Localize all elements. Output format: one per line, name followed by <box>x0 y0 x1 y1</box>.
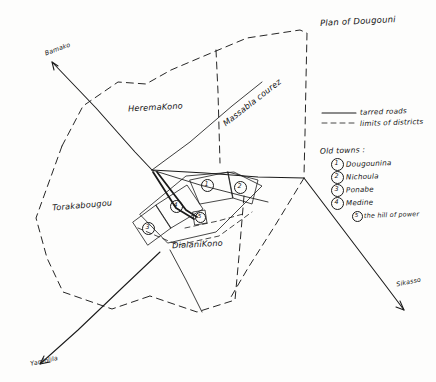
legend-number-1: 1 <box>331 158 342 169</box>
legend-label-4: Medine <box>346 198 374 208</box>
map-marker-number-1: 1 <box>201 179 212 190</box>
road-south-stub <box>170 250 202 312</box>
map-marker-number-2: 2 <box>234 181 245 192</box>
road-yanfolila <box>40 252 160 364</box>
legend-swatches <box>322 113 356 123</box>
legend-number-5: 5 <box>352 211 361 220</box>
road-northeast <box>152 82 262 170</box>
legend-label-tarred-roads: tarred roads <box>360 106 407 117</box>
arrow-head-bamako <box>52 62 58 70</box>
map-marker-number-4: 4 <box>170 200 181 211</box>
road-bamako <box>52 62 152 170</box>
tarred-roads <box>40 62 404 364</box>
district-boundary-center-vertical <box>216 50 220 163</box>
arrow-heads <box>40 62 404 364</box>
map-canvas: Plan of Dougouni HeremaKono Massabla cou… <box>0 0 436 382</box>
legend-heading-old-towns: Old towns : <box>320 145 365 156</box>
district-boundary-west <box>36 146 150 309</box>
legend-number-3: 3 <box>331 184 342 195</box>
legend-number-4: 4 <box>331 197 342 208</box>
legend-label-2: Nichoula <box>346 171 379 181</box>
district-boundary-north <box>62 30 307 176</box>
map-marker-number-3: 3 <box>142 222 153 233</box>
map-marker-number-5: 5 <box>195 212 204 221</box>
legend-label-3: Ponabe <box>346 185 374 195</box>
legend-label-1: Dougounina <box>346 158 392 169</box>
legend-number-2: 2 <box>331 171 342 182</box>
